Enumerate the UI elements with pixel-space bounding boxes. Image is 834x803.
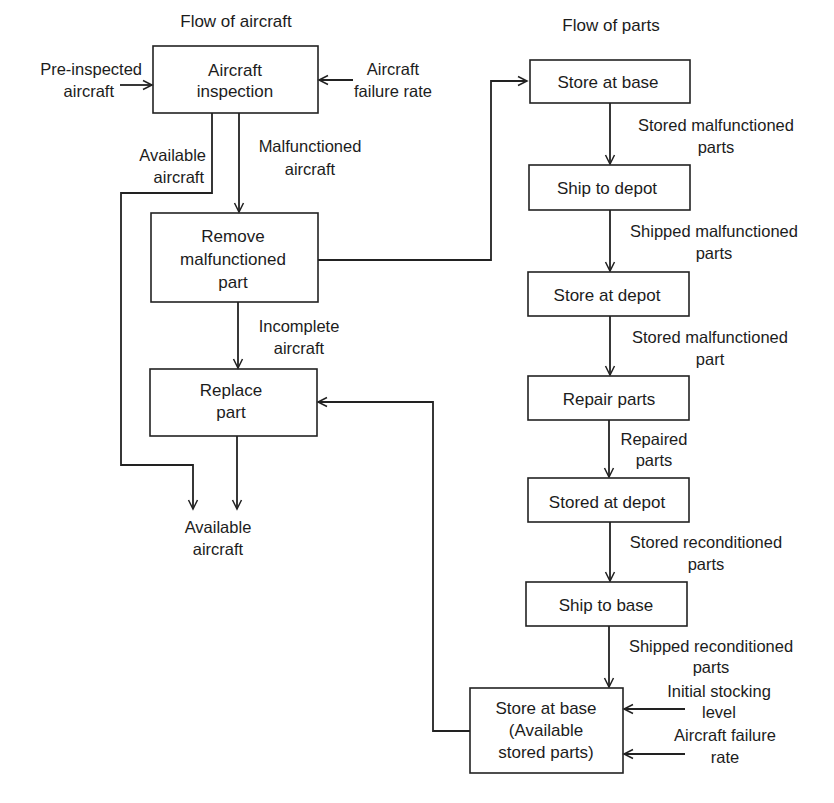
malfunctioned-aircraft-label-2: aircraft [285, 160, 336, 178]
initial-stocking-label-2: level [702, 703, 736, 721]
initial-stocking-label-1: Initial stocking [667, 682, 771, 700]
stored-at-depot-node: Stored at depot [528, 478, 689, 522]
edge-label-3-line-1: Stored malfunctioned [632, 328, 788, 346]
edge-label-4-line-1: Repaired [621, 430, 688, 448]
remove-part-line-2: malfunctioned [180, 250, 286, 269]
replace-part-line-2: part [216, 403, 246, 422]
store-at-base-available-line-3: stored parts) [498, 743, 593, 762]
parts-failure-rate-label-2: rate [711, 748, 739, 766]
replace-part-node: Replace part [150, 369, 317, 436]
incomplete-aircraft-label-1: Incomplete [259, 317, 340, 335]
repair-parts-label: Repair parts [563, 390, 656, 409]
store-at-depot-node: Store at depot [528, 272, 689, 316]
ship-to-base-label: Ship to base [559, 596, 654, 615]
flow-diagram: Flow of aircraft Flow of parts Aircraft … [0, 0, 834, 803]
replace-part-line-1: Replace [200, 381, 262, 400]
edge-label-5-line-1: Stored reconditioned [630, 533, 782, 551]
edge-label-2-line-2: parts [696, 244, 733, 262]
incomplete-aircraft-label-2: aircraft [274, 339, 325, 357]
edge-label-5-line-2: parts [688, 555, 725, 573]
stored-at-depot-label: Stored at depot [549, 493, 666, 512]
aircraft-inspection-line-1: Aircraft [208, 61, 262, 80]
available-aircraft-edge-label-2: aircraft [154, 168, 205, 186]
available-aircraft-output-1: Available [185, 518, 252, 536]
aircraft-flow-title: Flow of aircraft [180, 12, 292, 31]
remove-malfunctioned-part-node: Remove malfunctioned part [151, 213, 318, 302]
aircraft-inspection-node: Aircraft inspection [153, 46, 318, 113]
aircraft-failure-rate-label-2: failure rate [354, 82, 432, 100]
ship-to-depot-label: Ship to depot [557, 179, 657, 198]
edge-label-2-line-1: Shipped malfunctioned [630, 222, 798, 240]
available-aircraft-output-2: aircraft [193, 540, 244, 558]
edge-label-3-line-2: part [696, 350, 725, 368]
available-parts-to-replace-arrow [318, 402, 470, 731]
repair-parts-node: Repair parts [528, 376, 689, 420]
edge-label-6-line-1: Shipped reconditioned [629, 637, 793, 655]
store-at-base-node: Store at base [530, 60, 690, 103]
available-aircraft-edge-label-1: Available [139, 146, 206, 164]
aircraft-failure-rate-label-1: Aircraft [367, 60, 420, 78]
store-at-base-available-line-2: (Available [509, 721, 583, 740]
edge-label-4-line-2: parts [636, 451, 673, 469]
parts-flow-title: Flow of parts [562, 16, 659, 35]
pre-inspected-label-2: aircraft [64, 82, 115, 100]
edge-label-1-line-2: parts [698, 138, 735, 156]
ship-to-depot-node: Ship to depot [529, 165, 690, 210]
store-at-base-available-line-1: Store at base [495, 699, 596, 718]
malfunctioned-aircraft-label-1: Malfunctioned [259, 137, 362, 155]
store-at-depot-label: Store at depot [554, 286, 661, 305]
ship-to-base-node: Ship to base [526, 582, 687, 626]
aircraft-inspection-line-2: inspection [197, 82, 274, 101]
edge-label-1-line-1: Stored malfunctioned [638, 116, 794, 134]
parts-failure-rate-label-1: Aircraft failure [674, 726, 776, 744]
edge-label-6-line-2: parts [693, 658, 730, 676]
remove-part-line-3: part [218, 273, 248, 292]
remove-part-line-1: Remove [201, 227, 264, 246]
store-at-base-available-node: Store at base (Available stored parts) [470, 688, 623, 773]
store-at-base-label: Store at base [557, 73, 658, 92]
removed-part-to-store-arrow [318, 81, 527, 260]
pre-inspected-label-1: Pre-inspected [40, 60, 142, 78]
